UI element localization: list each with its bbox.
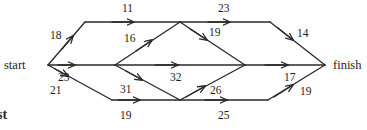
edge-weight-16: 16: [124, 33, 136, 45]
edge-bottomright-finish-arrow: [274, 85, 293, 97]
edge-weight-21: 21: [50, 85, 62, 97]
edge-weight-25: 25: [218, 110, 230, 122]
edge-weight-19-bottomleft: 19: [120, 110, 132, 122]
edge-weight-11: 11: [122, 3, 133, 15]
node-label-start: start: [4, 59, 26, 72]
edge-weight-14: 14: [297, 28, 309, 40]
edge-weight-19-bottomright-finish: 19: [300, 86, 312, 98]
edge-weight-26: 26: [210, 85, 222, 97]
node-label-finish: finish: [333, 59, 361, 72]
edge-weight-17: 17: [284, 72, 296, 84]
edge-weight-31: 31: [120, 84, 132, 96]
edge-weight-19-topmid-midright: 19: [209, 27, 221, 39]
edge-weight-23-start-midleft: 23: [58, 72, 70, 84]
edge-topmid-midright-arrow: [190, 29, 207, 40]
edge-midleft-topmid-arrow: [136, 40, 152, 51]
edge-weight-23-topmid-topright: 23: [218, 3, 230, 15]
edge-weight-18: 18: [50, 30, 62, 42]
edge-start-topleft-arrow: [62, 36, 73, 49]
network-graph: [0, 0, 367, 130]
diagram-canvas: start finish st 18 23 21 11 16 32 31 19 …: [0, 0, 367, 130]
edge-midleft-bottommid-arrow: [126, 71, 142, 80]
edge-bottommid-midright-arrow: [186, 86, 205, 97]
edge-topright-finish-arrow: [278, 28, 293, 40]
corner-text: st: [0, 108, 7, 122]
edge-weight-32: 32: [170, 72, 182, 84]
